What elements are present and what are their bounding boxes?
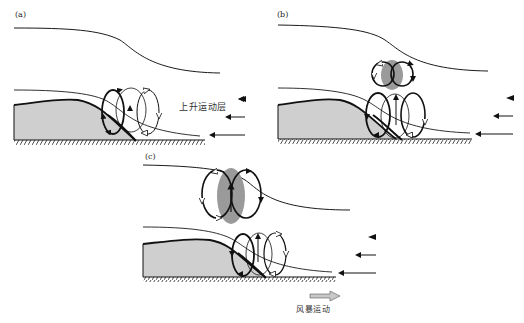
panel-b [278,25,514,144]
storm-motion-arrow [310,291,340,301]
panel-a [14,28,246,145]
thunderstorm-cold-pool-diagram: (a) (b) (c) 上升运动层 风暴运动 [0,0,524,323]
diagram-graphics [0,0,524,323]
panel-c [143,165,376,301]
